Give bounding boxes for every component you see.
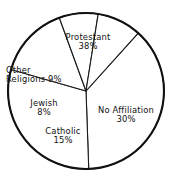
pie-label-jewish: Jewish 8% <box>16 99 72 118</box>
pie-chart-svg <box>0 0 172 183</box>
pie-label-catholic-value: 15% <box>33 136 93 145</box>
pie-label-other-religions: Other Religions 9% <box>6 66 80 85</box>
pie-label-protestant: Protestant 38% <box>52 33 124 52</box>
pie-chart: Protestant 38% No Affiliation 30% Cathol… <box>0 0 172 183</box>
pie-label-other-religions-value: Religions 9% <box>6 75 80 84</box>
pie-label-jewish-value: 8% <box>16 108 72 117</box>
pie-label-protestant-value: 38% <box>52 42 124 51</box>
pie-label-catholic: Catholic 15% <box>33 127 93 146</box>
pie-label-no-affiliation: No Affiliation 30% <box>90 106 162 125</box>
pie-label-no-affiliation-value: 30% <box>90 115 162 124</box>
